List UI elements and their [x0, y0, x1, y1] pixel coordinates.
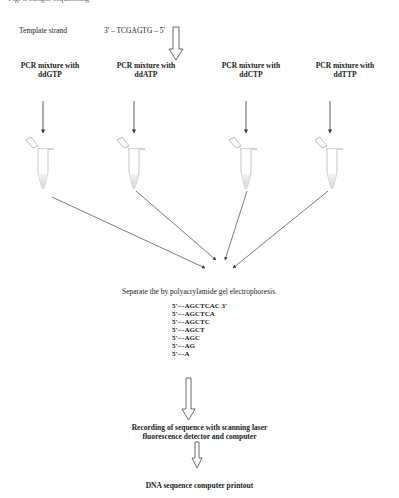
final-step-text: DNA sequence computer printout [0, 481, 399, 490]
tube-ddgtp-icon [26, 137, 54, 189]
recording-step-line1: Recording of sequence with scanning lase… [0, 423, 399, 432]
fragment-item: 5'---AGCTC [172, 318, 227, 326]
fragment-list: 5'---AGCTCAC 3' 5'---AGCTCA 5'---AGCTC 5… [172, 302, 227, 358]
tube-ddatp-icon [117, 137, 145, 189]
fragment-item: 5'---AGC [172, 334, 227, 342]
converge-arrow-4 [233, 191, 328, 268]
hollow-down-arrow-template [169, 27, 183, 60]
tube-ddttp-icon [315, 137, 343, 189]
fragment-item: 5'---AG [172, 342, 227, 350]
separation-step-text: Separate the by polyacrylamide gel elect… [0, 287, 399, 296]
fragment-item: 5'---AGCTCA [172, 310, 227, 318]
tube-ddctp-icon [229, 137, 257, 189]
hollow-down-arrow-recording [192, 442, 202, 468]
fragment-item: 5'---AGCT [172, 326, 227, 334]
recording-step-line2: fluorescence detector and computer [0, 432, 399, 441]
converge-arrow-2 [136, 191, 216, 260]
fragment-item: 5'---AGCTCAC 3' [172, 302, 227, 310]
converge-arrow-3 [225, 191, 247, 260]
hollow-down-arrow-fragments [182, 378, 195, 420]
fragment-item: 5'---A [172, 350, 227, 358]
converge-arrow-1 [52, 197, 205, 268]
recording-step-text: Recording of sequence with scanning lase… [0, 423, 399, 441]
